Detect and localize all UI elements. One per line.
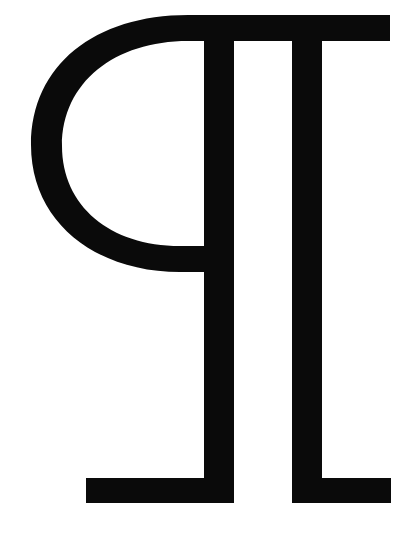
- glyph-canvas: pilcrow-like symbol: [0, 0, 415, 534]
- glyph-bowl-and-stems: [31, 15, 391, 503]
- pilcrow-glyph-icon: [0, 0, 415, 534]
